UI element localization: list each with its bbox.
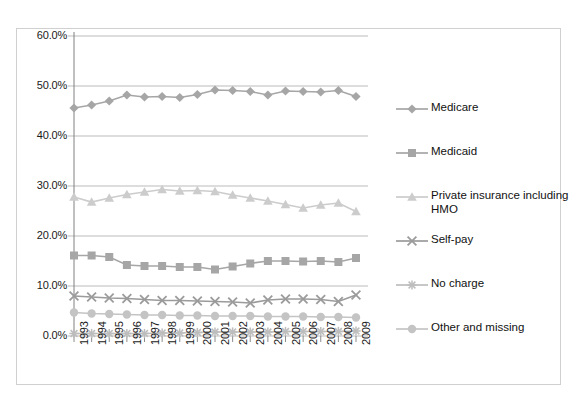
- y-axis-tick-label: 10.0%: [19, 279, 67, 291]
- data-point-marker: [70, 308, 78, 316]
- legend-item-private-insurance-including-hmo[interactable]: Private insurance including HMO: [395, 189, 571, 205]
- data-point-marker: [407, 104, 416, 113]
- series-medicare: [69, 85, 360, 112]
- data-point-marker: [407, 280, 416, 289]
- y-axis-tick-label: 50.0%: [19, 79, 67, 91]
- series-private-insurance-including-hmo: [69, 185, 361, 216]
- data-point-marker: [175, 93, 184, 102]
- data-point-marker: [210, 85, 219, 94]
- data-point-marker: [88, 252, 96, 260]
- x-axis-tick-label: 2005: [290, 321, 302, 345]
- legend-x-icon: [395, 233, 429, 249]
- data-point-marker: [299, 258, 307, 266]
- series-medicaid: [70, 252, 360, 274]
- x-axis-tick-label: 2007: [325, 321, 337, 345]
- data-point-marker: [264, 257, 272, 265]
- legend-item-medicaid[interactable]: Medicaid: [395, 145, 477, 161]
- data-point-marker: [122, 90, 131, 99]
- clipped-title-text: [0, 0, 579, 8]
- data-point-marker: [158, 92, 167, 101]
- legend-item-self-pay[interactable]: Self-pay: [395, 233, 473, 249]
- data-point-marker: [123, 261, 131, 269]
- legend-circle-icon: [395, 321, 429, 337]
- y-axis-tick-label: 60.0%: [19, 29, 67, 41]
- data-point-marker: [408, 149, 416, 157]
- legend-label: Medicare: [429, 101, 478, 115]
- x-axis-tick-label: 1997: [149, 321, 161, 345]
- data-point-marker: [211, 266, 219, 274]
- legend-item-medicare[interactable]: Medicare: [395, 101, 478, 117]
- data-point-marker: [352, 254, 360, 262]
- legend-label: No charge: [429, 277, 484, 291]
- series-self-pay: [70, 291, 361, 308]
- data-point-marker: [140, 311, 148, 319]
- data-point-marker: [70, 252, 78, 260]
- data-point-marker: [140, 92, 149, 101]
- data-point-marker: [193, 90, 202, 99]
- x-axis-tick-label: 1995: [113, 321, 125, 345]
- data-point-marker: [228, 86, 237, 95]
- data-point-marker: [316, 87, 325, 96]
- legend-label: Other and missing: [429, 321, 524, 335]
- data-point-marker: [246, 312, 254, 320]
- data-point-marker: [334, 313, 342, 321]
- legend-item-other-and-missing[interactable]: Other and missing: [395, 321, 524, 337]
- data-point-marker: [176, 263, 184, 271]
- data-point-marker: [317, 257, 325, 265]
- data-point-marker: [408, 325, 416, 333]
- data-point-marker: [176, 311, 184, 319]
- legend-label: Medicaid: [429, 145, 477, 159]
- legend-square-icon: [395, 145, 429, 161]
- legend-label: Self-pay: [429, 233, 473, 247]
- data-point-marker: [211, 312, 219, 320]
- data-point-marker: [317, 313, 325, 321]
- x-axis-tick-label: 1994: [96, 321, 108, 345]
- x-axis-tick-label: 1993: [78, 321, 90, 345]
- data-point-marker: [299, 87, 308, 96]
- x-axis-tick-label: 2004: [272, 321, 284, 345]
- data-point-marker: [105, 253, 113, 261]
- data-point-marker: [141, 262, 149, 270]
- data-point-marker: [105, 96, 114, 105]
- data-point-marker: [334, 258, 342, 266]
- x-axis-tick-label: 2008: [342, 321, 354, 345]
- data-point-marker: [87, 309, 95, 317]
- data-point-marker: [69, 192, 79, 201]
- data-point-marker: [193, 263, 201, 271]
- x-axis-tick-label: 2002: [237, 321, 249, 345]
- legend-star-icon: [395, 277, 429, 293]
- legend-item-no-charge[interactable]: No charge: [395, 277, 484, 293]
- x-axis-tick-label: 2003: [254, 321, 266, 345]
- y-axis-tick-label: 30.0%: [19, 179, 67, 191]
- x-axis-tick-label: 1996: [131, 321, 143, 345]
- data-point-marker: [193, 311, 201, 319]
- data-point-marker: [351, 92, 360, 101]
- data-point-marker: [246, 87, 255, 96]
- chart-container: 0.0%10.0%20.0%30.0%40.0%50.0%60.0% 19931…: [16, 28, 561, 385]
- data-point-marker: [246, 260, 254, 268]
- data-point-marker: [281, 86, 290, 95]
- x-axis-tick-label: 2006: [307, 321, 319, 345]
- data-point-marker: [105, 310, 113, 318]
- y-axis-tick-label: 0.0%: [19, 329, 67, 341]
- data-point-marker: [264, 312, 272, 320]
- data-point-marker: [228, 312, 236, 320]
- data-point-marker: [351, 207, 361, 216]
- legend-label: Private insurance including HMO: [429, 189, 571, 216]
- legend-triangle-icon: [395, 189, 429, 205]
- y-axis-tick-label: 40.0%: [19, 129, 67, 141]
- x-axis-tick-label: 1999: [184, 321, 196, 345]
- data-point-marker: [158, 311, 166, 319]
- x-axis-tick-label: 2009: [360, 321, 372, 345]
- data-point-marker: [334, 86, 343, 95]
- data-point-marker: [352, 291, 361, 300]
- y-axis-tick-label: 20.0%: [19, 229, 67, 241]
- data-point-marker: [69, 103, 78, 112]
- data-point-marker: [229, 263, 237, 271]
- data-point-marker: [281, 312, 289, 320]
- data-point-marker: [299, 312, 307, 320]
- data-point-marker: [263, 90, 272, 99]
- data-point-marker: [282, 257, 290, 265]
- x-axis-tick-label: 1998: [166, 321, 178, 345]
- x-axis-tick-label: 2000: [201, 321, 213, 345]
